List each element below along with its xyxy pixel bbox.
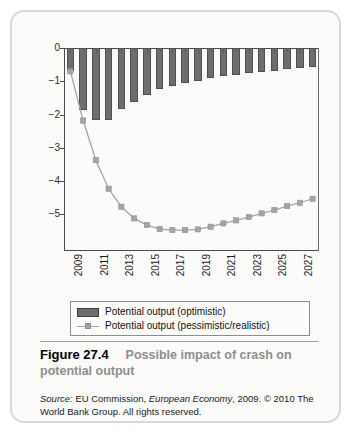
line-data-point <box>259 211 264 216</box>
x-tick-label: 2017 <box>176 254 186 276</box>
legend-label-pessimistic: Potential output (pessimistic/realistic) <box>105 321 270 331</box>
y-tick-label: 0 <box>54 43 60 53</box>
line-data-point <box>246 214 251 219</box>
x-tick-label: 2009 <box>74 254 84 276</box>
figure-source-note: Source: EU Commission, European Economy,… <box>40 392 322 419</box>
line-data-point <box>144 222 149 227</box>
x-tick-label: 2023 <box>253 254 263 276</box>
y-tick-label: −2 <box>49 110 60 120</box>
x-tick-label: 2015 <box>151 254 161 276</box>
figure-number: Figure 27.4 <box>40 347 109 362</box>
line-data-point <box>93 158 98 163</box>
line-data-point <box>106 186 111 191</box>
source-prefix: Source: <box>40 393 73 404</box>
line-data-point <box>310 196 315 201</box>
line-data-point <box>170 227 175 232</box>
legend-item-optimistic: Potential output (optimistic) <box>77 305 303 319</box>
line-data-point <box>68 69 73 74</box>
line-series-pessimistic <box>64 48 319 251</box>
line-data-point <box>221 221 226 226</box>
legend-bar-swatch-icon <box>77 308 99 317</box>
legend-line-marker-icon <box>77 322 99 331</box>
legend-item-pessimistic: Potential output (pessimistic/realistic) <box>77 319 303 333</box>
line-data-point <box>183 227 188 232</box>
caption-divider <box>40 341 318 342</box>
line-data-point <box>81 118 86 123</box>
figure-caption: Figure 27.4 Possible impact of crash on … <box>40 347 324 379</box>
y-tick-label: −3 <box>49 143 60 153</box>
figure-card: 0−1−2−3−4−5 2009201120132015201720192021… <box>10 10 341 423</box>
source-publication-name: European Economy <box>149 393 232 404</box>
y-tick-label: −5 <box>49 209 60 219</box>
line-data-point <box>272 207 277 212</box>
x-tick-label: 2019 <box>202 254 212 276</box>
line-data-point <box>132 216 137 221</box>
chart-plot-area: 0−1−2−3−4−5 2009201120132015201720192021… <box>50 38 328 258</box>
line-data-point <box>208 224 213 229</box>
line-data-point <box>157 226 162 231</box>
x-tick-label: 2021 <box>227 254 237 276</box>
x-tick-label: 2027 <box>304 254 314 276</box>
chart-axes-frame: 0−1−2−3−4−5 2009201120132015201720192021… <box>64 48 319 251</box>
line-data-point <box>297 200 302 205</box>
line-data-point <box>234 218 239 223</box>
chart-legend: Potential output (optimistic) Potential … <box>70 301 310 336</box>
source-body-first: EU Commission, <box>73 393 149 404</box>
x-tick-label: 2011 <box>100 254 110 276</box>
x-tick-label: 2013 <box>125 254 135 276</box>
x-tick-label: 2025 <box>278 254 288 276</box>
y-tick-label: −1 <box>49 76 60 86</box>
legend-label-optimistic: Potential output (optimistic) <box>105 307 226 317</box>
y-tick-label: −4 <box>49 176 60 186</box>
line-data-point <box>195 227 200 232</box>
line-data-point <box>119 204 124 209</box>
line-data-point <box>285 203 290 208</box>
